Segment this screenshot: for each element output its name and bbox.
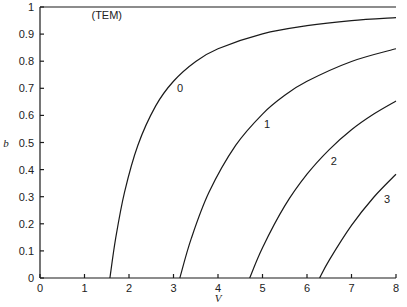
curve-label: 2 bbox=[331, 155, 337, 167]
y-tick-label: 0.9 bbox=[19, 28, 34, 40]
y-tick-label: 0.7 bbox=[19, 82, 34, 94]
y-tick-label: 0.1 bbox=[19, 245, 34, 257]
mode-curve-3 bbox=[320, 174, 396, 278]
curve-label: 3 bbox=[384, 193, 390, 205]
axes: 01234567800.10.20.30.40.50.60.70.80.91Vb bbox=[3, 1, 399, 304]
y-tick-label: 0.3 bbox=[19, 191, 34, 203]
mode-curve-2 bbox=[250, 101, 396, 278]
curve-label: 0 bbox=[177, 82, 183, 94]
curve-labels: (TEM)0123 bbox=[91, 9, 390, 205]
curves bbox=[40, 7, 396, 278]
x-tick-label: 7 bbox=[348, 282, 354, 294]
x-tick-label: 6 bbox=[304, 282, 310, 294]
y-tick-label: 0.6 bbox=[19, 109, 34, 121]
x-tick-label: 8 bbox=[393, 282, 399, 294]
curve-label: (TEM) bbox=[91, 9, 122, 21]
y-axis-title: b bbox=[3, 137, 9, 149]
x-axis-title: V bbox=[215, 292, 223, 304]
chart-canvas: 01234567800.10.20.30.40.50.60.70.80.91Vb… bbox=[0, 0, 407, 307]
x-tick-label: 3 bbox=[170, 282, 176, 294]
x-tick-label: 5 bbox=[259, 282, 265, 294]
y-tick-label: 0.8 bbox=[19, 55, 34, 67]
mode-curve-1 bbox=[180, 49, 396, 278]
y-tick-label: 0 bbox=[28, 272, 34, 284]
y-tick-label: 0.2 bbox=[19, 218, 34, 230]
y-tick-label: 0.5 bbox=[19, 137, 34, 149]
x-tick-label: 2 bbox=[126, 282, 132, 294]
y-tick-label: 1 bbox=[28, 1, 34, 13]
curve-label: 1 bbox=[264, 118, 270, 130]
x-tick-label: 1 bbox=[81, 282, 87, 294]
x-tick-label: 0 bbox=[37, 282, 43, 294]
y-tick-label: 0.4 bbox=[19, 164, 34, 176]
mode-curve-0 bbox=[110, 18, 396, 278]
